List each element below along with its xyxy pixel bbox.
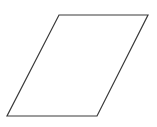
parallelogram-shape (7, 15, 148, 116)
diagram-canvas (0, 0, 157, 127)
parallelogram-shape-svg (0, 0, 157, 127)
